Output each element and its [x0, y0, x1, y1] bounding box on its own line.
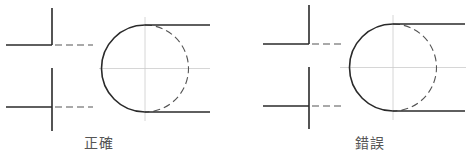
label-incorrect: 錯誤: [355, 132, 385, 152]
drawing-canvas: [0, 0, 471, 157]
label-correct: 正確: [84, 132, 114, 152]
